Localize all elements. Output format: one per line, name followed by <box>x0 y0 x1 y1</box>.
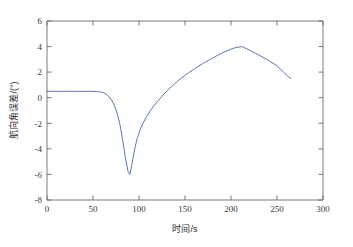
y-tick-label-0: 0 <box>38 93 43 103</box>
line-chart-svg: 0 50 100 150 200 250 300 -8 -6 -4 -2 0 2… <box>0 0 353 247</box>
y-tick-label-neg8: -8 <box>35 195 43 205</box>
y-axis-title: 航向角误差/(°) <box>8 81 19 138</box>
chart-canvas: 0 50 100 150 200 250 300 -8 -6 -4 -2 0 2… <box>0 0 353 247</box>
y-tick-label-4: 4 <box>38 42 43 52</box>
x-tick-label-200: 200 <box>224 204 238 214</box>
y-tick-label-neg2: -2 <box>35 119 43 129</box>
x-tick-label-0: 0 <box>45 204 50 214</box>
figure-background <box>0 0 353 247</box>
x-tick-label-250: 250 <box>270 204 284 214</box>
y-tick-label-neg4: -4 <box>35 144 43 154</box>
y-tick-label-6: 6 <box>38 16 43 26</box>
x-axis-title: 时间/s <box>172 223 198 234</box>
x-tick-label-150: 150 <box>178 204 192 214</box>
x-tick-label-300: 300 <box>316 204 330 214</box>
x-tick-label-100: 100 <box>132 204 146 214</box>
chart-figure-page: 0 50 100 150 200 250 300 -8 -6 -4 -2 0 2… <box>0 0 353 247</box>
y-tick-label-2: 2 <box>38 67 43 77</box>
y-tick-label-neg6: -6 <box>35 170 43 180</box>
x-tick-label-50: 50 <box>89 204 99 214</box>
